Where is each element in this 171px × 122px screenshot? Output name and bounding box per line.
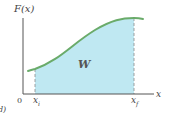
- y-axis-label: F(x): [14, 4, 34, 14]
- work-area-diagram: F(x) W 0 xi xf x d): [0, 0, 171, 122]
- x-final-sub: f: [136, 100, 138, 107]
- x-initial-sub: i: [38, 100, 40, 107]
- panel-label: d): [0, 106, 6, 114]
- x-final-label: xf: [131, 96, 138, 107]
- x-initial-label: xi: [33, 96, 40, 107]
- x-axis-label: x: [156, 90, 161, 99]
- work-area-fill: [35, 18, 134, 94]
- origin-label: 0: [17, 97, 22, 105]
- area-label-w: W: [78, 59, 90, 70]
